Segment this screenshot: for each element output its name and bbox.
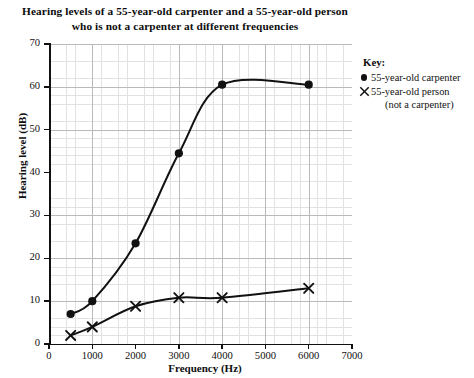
- y-axis-line: [49, 43, 51, 345]
- legend-title: Key:: [363, 56, 473, 68]
- x-tick-label: 7000: [332, 350, 372, 361]
- y-tick: [44, 215, 49, 216]
- grid-lines: [49, 44, 352, 344]
- y-tick: [44, 43, 49, 44]
- x-tick-label: 0: [29, 350, 69, 361]
- legend-item-carpenter-label: 55-year-old carpenter: [371, 71, 461, 84]
- y-tick: [44, 129, 49, 130]
- x-tick-label: 6000: [289, 350, 329, 361]
- chart-title: Hearing levels of a 55-year-old carpente…: [20, 4, 350, 34]
- y-tick-label: 70: [10, 37, 40, 48]
- y-tick: [44, 300, 49, 301]
- x-tick-label: 2000: [116, 350, 156, 361]
- filled-circle-icon: [357, 71, 371, 84]
- x-tick-label: 1000: [72, 350, 112, 361]
- x-tick: [351, 344, 352, 349]
- y-axis-title: Hearing level (dB): [16, 86, 28, 226]
- x-axis-title: Frequency (Hz): [120, 362, 290, 374]
- x-tick: [308, 344, 309, 349]
- x-tick: [135, 344, 136, 349]
- legend-item-carpenter[interactable]: 55-year-old carpenter: [357, 71, 473, 84]
- plot-area: [49, 44, 352, 344]
- chart-title-line-1: Hearing levels of a 55-year-old carpente…: [20, 4, 350, 19]
- legend: Key: 55-year-old carpenter 55-year-old p…: [357, 56, 473, 112]
- x-tick: [221, 344, 222, 349]
- x-tick-label: 5000: [245, 350, 285, 361]
- legend-item-non-carpenter[interactable]: 55-year-old person (not a carpenter): [357, 85, 473, 111]
- y-tick: [44, 258, 49, 259]
- x-tick-label: 4000: [202, 350, 242, 361]
- y-tick: [44, 86, 49, 87]
- legend-item-non-carpenter-label: 55-year-old person: [371, 86, 450, 97]
- cross-icon: [357, 85, 371, 98]
- chart-page: Hearing levels of a 55-year-old carpente…: [0, 0, 474, 378]
- chart-title-line-2: who is not a carpenter at different freq…: [20, 19, 350, 34]
- x-tick: [48, 344, 49, 349]
- x-tick: [265, 344, 266, 349]
- x-tick-label: 3000: [159, 350, 199, 361]
- y-tick: [44, 172, 49, 173]
- y-tick-label: 20: [10, 251, 40, 262]
- y-tick-label: 10: [10, 294, 40, 305]
- legend-item-non-carpenter-label-2: (not a carpenter): [385, 99, 454, 110]
- x-tick: [178, 344, 179, 349]
- x-tick: [92, 344, 93, 349]
- y-tick-label: 0: [10, 337, 40, 348]
